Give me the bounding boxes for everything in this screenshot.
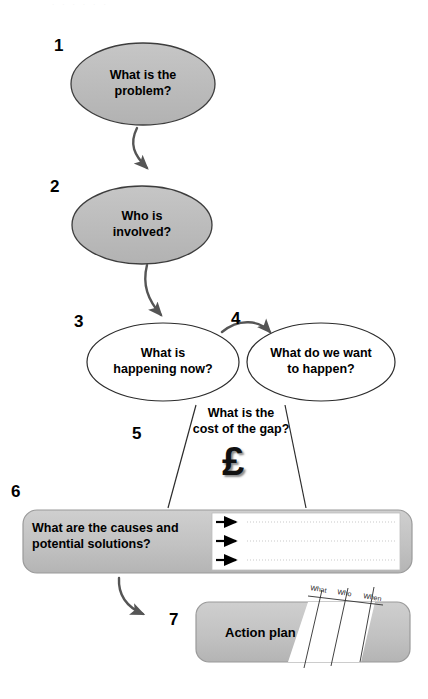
- node-label-2: Who is involved?: [82, 209, 202, 240]
- step-number-2: 2: [50, 178, 59, 195]
- node-label-5: What is the cost of the gap?: [179, 406, 303, 437]
- diagram-canvas: · · · · · ·: [0, 0, 428, 699]
- arrow-3-to-4: [222, 322, 270, 332]
- arrow-2-to-3: [145, 265, 161, 315]
- step-number-4: 4: [231, 310, 240, 327]
- step-number-1: 1: [54, 37, 63, 54]
- node-label-1: What is the problem?: [83, 68, 203, 99]
- arrow-6-to-7: [119, 578, 143, 614]
- arrow-1-to-2: [133, 128, 147, 168]
- node-label-7: Action plan: [225, 625, 335, 641]
- step-number-7: 7: [169, 611, 178, 628]
- node-label-3: What is happening now?: [93, 346, 233, 377]
- panel-6-list-area: [212, 513, 400, 570]
- step-number-6: 6: [11, 483, 20, 500]
- step-number-3: 3: [74, 313, 83, 330]
- node-label-6: What are the causes and potential soluti…: [32, 521, 208, 552]
- node-label-4: What do we want to happen?: [251, 346, 391, 377]
- pound-currency-icon: £: [222, 441, 244, 481]
- step-number-5: 5: [132, 425, 141, 442]
